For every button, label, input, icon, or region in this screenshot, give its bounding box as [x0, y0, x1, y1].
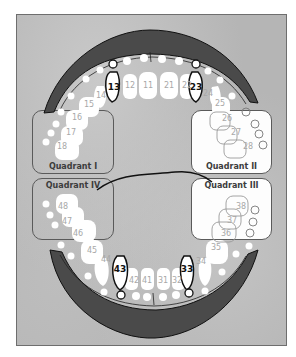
label-36: 36: [221, 229, 231, 238]
label-14: 14: [96, 91, 106, 100]
label-17: 17: [66, 128, 76, 137]
dot-43: [117, 291, 125, 299]
label-41: 41: [142, 276, 152, 285]
label-11: 11: [143, 81, 153, 90]
label-27: 27: [231, 128, 241, 137]
label-45: 45: [87, 246, 97, 255]
tongue-line: [97, 172, 212, 190]
label-46: 46: [73, 229, 83, 238]
label-44: 44: [101, 255, 111, 264]
label-42: 42: [129, 276, 139, 285]
label-26: 26: [222, 114, 232, 123]
dot-23: [192, 60, 200, 68]
label-23: 23: [190, 82, 203, 92]
label-37: 37: [227, 216, 237, 225]
label-16: 16: [72, 113, 82, 122]
mouth-illustration: 11 21 12 22 13 23 14 24 15 25 16 17 18 2…: [0, 0, 296, 357]
label-35: 35: [211, 243, 221, 252]
dot-33: [185, 289, 193, 297]
label-24: 24: [203, 89, 213, 98]
label-15: 15: [84, 100, 94, 109]
label-25: 25: [215, 99, 225, 108]
label-43: 43: [114, 264, 127, 274]
dot-13: [109, 60, 117, 68]
label-18: 18: [57, 142, 67, 151]
label-38: 38: [236, 202, 246, 211]
label-34: 34: [196, 257, 206, 266]
label-31: 31: [158, 276, 168, 285]
label-21: 21: [164, 81, 174, 90]
label-47: 47: [62, 217, 72, 226]
label-28: 28: [243, 142, 253, 151]
lower-gum: [50, 250, 258, 338]
label-13: 13: [108, 82, 121, 92]
label-32: 32: [172, 276, 182, 285]
label-48: 48: [58, 202, 68, 211]
label-12: 12: [125, 81, 135, 90]
label-33: 33: [181, 264, 194, 274]
